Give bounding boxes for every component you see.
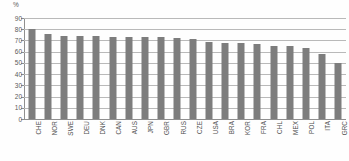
x-axis-label-dnk: DNK bbox=[99, 121, 106, 157]
bar-slot bbox=[185, 18, 201, 119]
x-axis-label-ita: ITA bbox=[324, 121, 331, 157]
bar bbox=[190, 39, 197, 119]
y-axis-tick-label: 90 bbox=[2, 15, 22, 22]
bar-slot bbox=[121, 18, 137, 119]
bar-slot bbox=[72, 18, 88, 119]
x-axis-label-mex: MEX bbox=[292, 121, 299, 157]
bar-slot bbox=[201, 18, 217, 119]
bar bbox=[222, 43, 229, 119]
bar-slot bbox=[153, 18, 169, 119]
y-axis-tick-label: 70 bbox=[2, 37, 22, 44]
bar-slot bbox=[249, 18, 265, 119]
bar bbox=[125, 37, 132, 119]
x-axis-label-usa: USA bbox=[212, 121, 219, 157]
bar-slot bbox=[282, 18, 298, 119]
bar bbox=[157, 37, 164, 119]
bar bbox=[45, 34, 52, 119]
bar bbox=[286, 46, 293, 119]
x-axis-label-deu: DEU bbox=[83, 121, 90, 157]
bar bbox=[141, 37, 148, 119]
bar bbox=[302, 48, 309, 119]
bar bbox=[61, 36, 68, 119]
bar bbox=[238, 43, 245, 119]
bar bbox=[254, 44, 261, 119]
bar-slot bbox=[314, 18, 330, 119]
y-axis-tick-label: 40 bbox=[2, 71, 22, 78]
x-axis-label-nor: NOR bbox=[51, 121, 58, 157]
bar bbox=[93, 36, 100, 119]
bar bbox=[173, 38, 180, 119]
bar-slot bbox=[56, 18, 72, 119]
bar-slot bbox=[169, 18, 185, 119]
y-axis-tick-label: 10 bbox=[2, 104, 22, 111]
plot-area bbox=[24, 18, 346, 119]
bar-slot bbox=[298, 18, 314, 119]
bar-slot bbox=[24, 18, 40, 119]
bar-chart: % 0102030405060708090 CHENORSWEDEUDNKCAN… bbox=[0, 0, 349, 161]
x-axis-label-chl: CHL bbox=[276, 121, 283, 157]
bar-slot bbox=[137, 18, 153, 119]
bar-slot bbox=[40, 18, 56, 119]
bar-slot bbox=[105, 18, 121, 119]
x-axis-label-bra: BRA bbox=[228, 121, 235, 157]
x-axis-label-pol: POL bbox=[308, 121, 315, 157]
bar bbox=[206, 42, 213, 119]
x-axis-label-fra: FRA bbox=[260, 121, 267, 157]
bar bbox=[318, 54, 325, 119]
x-axis-label-can: CAN bbox=[115, 121, 122, 157]
bar-slot bbox=[88, 18, 104, 119]
bars-layer bbox=[24, 18, 346, 119]
bar bbox=[29, 29, 36, 119]
gridline bbox=[24, 119, 346, 120]
x-axis-label-gbr: GBR bbox=[163, 121, 170, 157]
bar bbox=[270, 46, 277, 119]
y-axis-tick-label: 20 bbox=[2, 93, 22, 100]
y-axis-tick-label: 80 bbox=[2, 26, 22, 33]
y-axis-tick-label: 0 bbox=[2, 116, 22, 123]
bar-slot bbox=[233, 18, 249, 119]
y-axis-unit-label: % bbox=[13, 1, 19, 9]
y-axis-tick-label: 60 bbox=[2, 48, 22, 55]
bar bbox=[109, 37, 116, 119]
x-axis-label-rus: RUS bbox=[180, 121, 187, 157]
bar-slot bbox=[330, 18, 346, 119]
x-axis-label-aus: AUS bbox=[131, 121, 138, 157]
bar bbox=[334, 63, 341, 119]
x-axis-label-swe: SWE bbox=[67, 121, 74, 157]
bar-slot bbox=[217, 18, 233, 119]
bar-slot bbox=[266, 18, 282, 119]
y-axis-tick-label: 30 bbox=[2, 82, 22, 89]
x-axis-category-labels: CHENORSWEDEUDNKCANAUSJPNGBRRUSCZEUSABRAK… bbox=[24, 121, 346, 161]
x-axis-label-che: CHE bbox=[35, 121, 42, 157]
x-axis-label-grc: GRC bbox=[341, 121, 348, 157]
x-axis-label-jpn: JPN bbox=[147, 121, 154, 157]
bar bbox=[77, 36, 84, 119]
x-axis-label-kor: KOR bbox=[244, 121, 251, 157]
x-axis-label-cze: CZE bbox=[196, 121, 203, 157]
y-axis-tick-label: 50 bbox=[2, 59, 22, 66]
